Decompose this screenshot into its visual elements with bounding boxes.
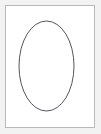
figure-drawing-area — [0, 0, 101, 134]
ellipse-shape — [19, 21, 74, 111]
figure-canvas — [0, 0, 101, 134]
